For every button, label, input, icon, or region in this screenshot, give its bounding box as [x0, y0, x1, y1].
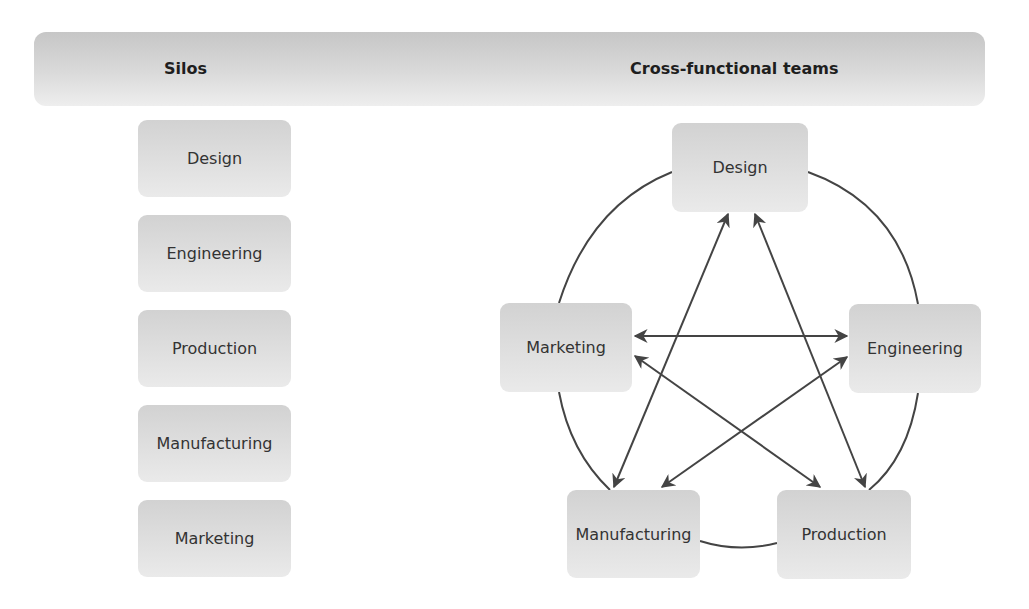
team-node-production: Production: [777, 490, 911, 579]
team-node-engineering: Engineering: [849, 304, 981, 393]
ring-arc-production-manufacturing: [700, 541, 777, 548]
ring-arc-engineering-production: [869, 393, 918, 490]
ring-arc-marketing-design: [559, 172, 672, 303]
arrow-marketing-production: [635, 356, 820, 487]
team-label: Marketing: [526, 338, 606, 357]
team-label: Design: [712, 158, 767, 177]
team-node-design: Design: [672, 123, 808, 212]
team-label: Engineering: [867, 339, 963, 358]
team-label: Manufacturing: [576, 525, 692, 544]
team-node-manufacturing: Manufacturing: [567, 490, 700, 578]
ring-arc-design-engineering: [808, 172, 918, 304]
arrow-engineering-manufacturing: [662, 357, 847, 487]
ring-arc-manufacturing-marketing: [559, 392, 610, 490]
team-node-marketing: Marketing: [500, 303, 632, 392]
team-label: Production: [801, 525, 886, 544]
